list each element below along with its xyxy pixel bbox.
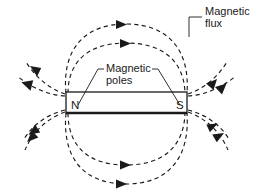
magnetic-field-diagram: N S Magnetic flux Magnetic poles [0, 0, 256, 192]
flux-arrow-s-spray-4 [212, 129, 226, 142]
flux-label-leader [189, 17, 202, 37]
flux-arrow-inner-bottom [120, 161, 131, 170]
flux-line-outer-bottom [66, 113, 188, 184]
flux-label-line1: Magnetic [205, 5, 250, 17]
poles-label-line2: poles [106, 74, 133, 86]
flux-line-n-spray-2 [17, 76, 65, 96]
flux-arrow-s-spray-2 [215, 84, 227, 95]
flux-arrow-outer-top [116, 20, 127, 29]
flux-arrow-outer-bottom [116, 180, 127, 189]
flux-line-inner-bottom [68, 113, 185, 165]
poles-label-line1: Magnetic [106, 62, 151, 74]
bar-magnet [66, 92, 187, 113]
flux-arrow-inner-top [120, 39, 131, 48]
flux-label-line2: flux [205, 17, 223, 29]
flux-line-s-spray-4 [188, 112, 228, 150]
flux-arrow-s-spray-1 [206, 79, 217, 90]
